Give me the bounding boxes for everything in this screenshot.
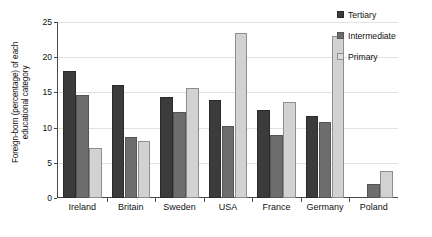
y-axis-tick-mark	[54, 57, 57, 58]
x-axis-tick-label: Britain	[107, 202, 156, 212]
y-axis-tick-mark	[54, 198, 57, 199]
bar-france-intermediate[interactable]	[270, 135, 283, 198]
bar-sweden-primary[interactable]	[186, 88, 199, 198]
legend-swatch-icon	[337, 11, 344, 18]
x-axis-group-separator	[252, 198, 253, 202]
legend-item-tertiary[interactable]: Tertiary	[337, 9, 432, 20]
y-axis-tick-mark	[54, 163, 57, 164]
y-axis-tick-label: 25	[42, 17, 52, 27]
y-axis-tick-mark	[54, 92, 57, 93]
bar-usa-primary[interactable]	[235, 33, 248, 198]
bar-group: France	[252, 22, 301, 198]
bar-germany-tertiary[interactable]	[306, 116, 319, 198]
legend-item-primary[interactable]: Primary	[337, 51, 432, 62]
legend-item-label: Intermediate	[348, 31, 396, 41]
bar-group: Ireland	[58, 22, 107, 198]
bar-sweden-tertiary[interactable]	[160, 97, 173, 198]
x-axis-group-separator	[107, 198, 108, 202]
x-axis-tick-label: France	[252, 202, 301, 212]
bar-britain-primary[interactable]	[138, 141, 151, 198]
bar-group: Sweden	[155, 22, 204, 198]
x-axis-tick-label: USA	[204, 202, 253, 212]
y-axis-label-container: Foreign-born (percentage) of each educat…	[0, 0, 34, 215]
y-axis-tick-mark	[54, 22, 57, 23]
bar-france-tertiary[interactable]	[257, 110, 270, 198]
y-axis-label: Foreign-born (percentage) of each educat…	[11, 7, 32, 197]
legend-swatch-icon	[337, 53, 344, 60]
bar-ireland-tertiary[interactable]	[63, 71, 76, 198]
y-axis-tick-label: 10	[42, 123, 52, 133]
legend-item-label: Primary	[348, 52, 378, 62]
y-axis-tick-label: 15	[42, 87, 52, 97]
bar-france-primary[interactable]	[283, 102, 296, 198]
y-axis-tick-label: 5	[47, 158, 52, 168]
legend: TertiaryIntermediatePrimary	[337, 9, 432, 72]
bar-sweden-intermediate[interactable]	[173, 112, 186, 198]
x-axis-tick-label: Sweden	[155, 202, 204, 212]
bar-group: USA	[204, 22, 253, 198]
bar-usa-intermediate[interactable]	[222, 126, 235, 199]
bar-britain-intermediate[interactable]	[125, 137, 138, 198]
y-axis-tick-mark	[54, 128, 57, 129]
x-axis-group-separator	[349, 198, 350, 202]
y-axis-tick-label: 0	[47, 193, 52, 203]
bar-britain-tertiary[interactable]	[112, 85, 125, 198]
x-axis-group-separator	[204, 198, 205, 202]
bar-ireland-primary[interactable]	[89, 148, 102, 198]
bar-ireland-intermediate[interactable]	[76, 95, 89, 198]
x-axis-group-separator	[301, 198, 302, 202]
x-axis-tick-label: Poland	[349, 202, 398, 212]
y-axis-tick-label: 20	[42, 52, 52, 62]
bar-poland-intermediate[interactable]	[367, 184, 380, 198]
bar-group: Britain	[107, 22, 156, 198]
legend-swatch-icon	[337, 32, 344, 39]
legend-item-intermediate[interactable]: Intermediate	[337, 30, 432, 41]
bar-usa-tertiary[interactable]	[209, 100, 222, 198]
bar-chart-figure: Foreign-born (percentage) of each educat…	[0, 0, 432, 237]
bar-poland-primary[interactable]	[380, 171, 393, 198]
x-axis-tick-label: Germany	[301, 202, 350, 212]
legend-item-label: Tertiary	[348, 10, 376, 20]
bar-germany-intermediate[interactable]	[319, 122, 332, 198]
x-axis-tick-label: Ireland	[58, 202, 107, 212]
x-axis-group-separator	[155, 198, 156, 202]
